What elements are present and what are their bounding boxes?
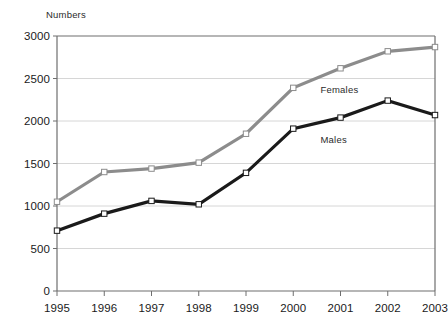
x-axis-tick-label: 2002 <box>375 302 401 314</box>
data-point-marker <box>149 166 154 171</box>
x-axis-tick-label: 2001 <box>328 302 354 314</box>
data-point-marker <box>291 126 296 131</box>
x-axis-tick-label: 1997 <box>139 302 165 314</box>
data-point-marker <box>243 170 248 175</box>
data-point-marker <box>432 44 437 49</box>
data-point-marker <box>196 160 201 165</box>
series-markers <box>54 44 437 233</box>
series-label-males: Males <box>321 134 347 145</box>
series-label-females: Females <box>321 84 359 95</box>
data-point-marker <box>385 98 390 103</box>
data-point-marker <box>338 115 343 120</box>
data-point-marker <box>385 49 390 54</box>
data-point-marker <box>338 66 343 71</box>
x-axis-tick-label: 1996 <box>91 302 117 314</box>
data-point-marker <box>291 85 296 90</box>
x-axis-tick-label: 2000 <box>280 302 306 314</box>
data-point-marker <box>54 228 59 233</box>
series-line-females <box>57 47 435 202</box>
x-axis-ticks <box>57 291 435 296</box>
x-axis-tick-label: 1999 <box>233 302 259 314</box>
data-point-marker <box>102 169 107 174</box>
x-axis-tick-label: 1995 <box>44 302 70 314</box>
x-axis-tick-label: 2003 <box>422 302 448 314</box>
data-point-marker <box>432 112 437 117</box>
data-point-marker <box>243 131 248 136</box>
data-point-marker <box>102 211 107 216</box>
data-point-marker <box>149 198 154 203</box>
data-point-marker <box>54 199 59 204</box>
data-point-marker <box>196 202 201 207</box>
series-lines <box>57 47 435 231</box>
series-line-males <box>57 101 435 231</box>
x-axis-tick-label: 1998 <box>186 302 212 314</box>
